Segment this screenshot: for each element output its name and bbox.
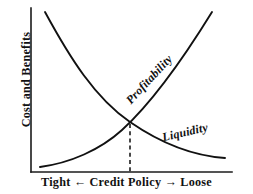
y-axis-title: Cost and Benefits <box>19 10 34 150</box>
profitability-curve <box>40 12 212 167</box>
chart-plot-area: Profitability Liquidity <box>0 0 253 194</box>
liquidity-curve-label: Liquidity <box>160 120 210 144</box>
x-axis-title: Tight ← Credit Policy → Loose <box>0 175 253 190</box>
chart-figure: Profitability Liquidity Cost and Benefit… <box>0 0 253 194</box>
